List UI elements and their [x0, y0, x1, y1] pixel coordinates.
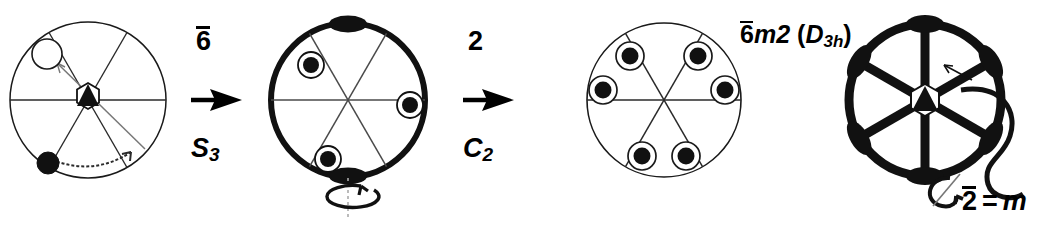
ringed-point — [628, 142, 656, 170]
ringed-point — [616, 42, 644, 70]
diagram-1-svg — [0, 8, 180, 194]
ringed-point — [711, 76, 739, 104]
step-1-bottom-label: S3 — [191, 135, 220, 164]
step-1-arrow — [190, 86, 246, 114]
mirror-note: 2=m — [962, 188, 1027, 215]
diagram-2-sixbar-orbit — [262, 8, 442, 220]
mirror-note-equals: = — [982, 186, 998, 216]
step-2-top-label-text: 2 — [468, 26, 483, 56]
step-2-bottom-label-sub: 2 — [483, 144, 494, 165]
step-1-bottom-label-sub: 3 — [209, 144, 220, 165]
mirror-note-symbol: 2 — [962, 188, 977, 215]
diagram-3-svg — [578, 8, 760, 194]
diagram-3-full-orbit — [578, 8, 760, 194]
ringed-point — [298, 52, 324, 78]
step-1-bottom-label-text: S — [191, 133, 209, 163]
ringed-point — [315, 146, 341, 172]
ringed-point — [397, 92, 423, 118]
schoenflies-letter: D — [805, 20, 823, 48]
right-arrow-icon — [190, 86, 246, 114]
ringed-point — [684, 42, 712, 70]
mirror-note-mirror: m — [1003, 186, 1027, 216]
step-2-top-label: 2 — [468, 28, 483, 55]
hm-symbol-rest: m2 — [754, 20, 790, 48]
two-fold-axis-marker — [329, 16, 367, 33]
sixbar-axis-icon — [911, 84, 939, 116]
step-1-top-label: 6 — [196, 28, 211, 55]
rotation-arrow-icon — [327, 185, 379, 207]
ringed-point — [672, 142, 700, 170]
diagram-1-general-position — [0, 8, 180, 194]
sixbar-axis-icon — [77, 83, 99, 109]
ringed-point — [589, 76, 617, 104]
point-group-symbol: 6m2(D3h) — [740, 22, 852, 50]
step-2-arrow — [462, 86, 518, 114]
two-fold-axis-marker — [906, 15, 944, 33]
step-1-top-label-text: 6 — [196, 28, 211, 55]
filled-circle-point — [37, 152, 59, 174]
open-circle-point — [32, 39, 62, 69]
diagram-2-svg — [262, 8, 442, 220]
step-2-bottom-label: C2 — [463, 135, 493, 164]
right-arrow-icon — [462, 86, 518, 114]
figure-canvas: 6 S3 — [0, 0, 1053, 228]
step-2-bottom-label-text: C — [463, 133, 483, 163]
hm-symbol-prefix: 6 — [740, 22, 754, 47]
